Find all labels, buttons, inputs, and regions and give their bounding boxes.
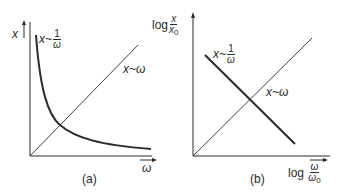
panel-a-y-arrow-icon [22,20,26,38]
panel-a-inverse-fraction: 1ω [52,29,62,50]
panel-b-inverse-fraction: 1ω [226,44,236,65]
panel-b-linear-label: x~ω [266,86,288,98]
panel-b-y-fraction: xx0 [168,14,179,38]
panel-b-inverse-label-prefix: x~ [213,47,226,61]
panel-a-caption: (a) [82,172,97,186]
fraction-denominator-sub: 0 [174,28,178,37]
panel-a-x-axis-label: ω [142,162,151,174]
panel-b-caption: (b) [250,172,265,186]
fraction-denominator-sub: 0 [316,176,320,185]
panel-b-y-log: log [152,18,168,32]
panel-b-x-axis-label: log ωω0 [288,162,322,186]
panel-b-x-fraction: ωω0 [307,162,321,186]
panel-a-inverse-label-prefix: x~ [39,32,52,46]
panel-b-inverse-label: x~1ω [213,44,236,65]
panel-b-y-axis-label: logxx0 [152,14,179,38]
fraction-denominator: ω0 [307,173,321,186]
panel-a-inverse-label: x~1ω [39,29,62,50]
panel-b-axes [191,12,330,156]
panel-b-linear-line [193,38,312,156]
panel-b-x-log: log [288,166,304,180]
panel-a-y-axis-label: x [12,28,18,40]
fraction-denominator: ω [52,40,62,50]
fraction-denominator: ω [226,55,236,65]
fraction-denominator: x0 [168,25,179,38]
panel-a-linear-label: x~ω [123,63,145,75]
fraction-denominator-var: ω [308,172,316,183]
